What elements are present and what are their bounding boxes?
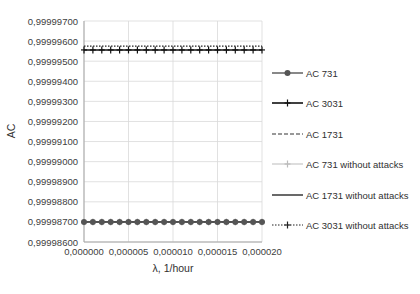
- data-point-marker: [241, 219, 247, 225]
- data-point-marker: [152, 219, 158, 225]
- x-tick-label: 0,000005: [109, 246, 149, 257]
- data-point-marker: [170, 219, 176, 225]
- y-tick-label: 0,99999600: [28, 36, 78, 47]
- data-point-marker: [117, 219, 123, 225]
- data-point-marker: [90, 219, 96, 225]
- legend: AC 731AC 3031AC 1731AC 731 without attac…: [272, 68, 409, 231]
- y-tick-label: 0,99999000: [28, 156, 78, 167]
- y-tick-label: 0,99999400: [28, 76, 78, 87]
- y-tick-label: 0,99999500: [28, 56, 78, 67]
- y-tick-label: 0,99998900: [28, 176, 78, 187]
- y-tick-label: 0,99999200: [28, 116, 78, 127]
- x-axis-tick-labels: 0,0000000,0000050,0000100,0000150,000020: [64, 246, 282, 257]
- x-axis-title: λ, 1/hour: [153, 262, 194, 274]
- data-point-marker: [197, 219, 203, 225]
- y-axis-tick-labels: 0,999986000,999987000,999988000,99998900…: [28, 16, 78, 248]
- data-point-marker: [126, 219, 132, 225]
- data-point-marker: [206, 219, 212, 225]
- chart: 0,999986000,999987000,999988000,99998900…: [0, 0, 420, 294]
- data-point-marker: [215, 219, 221, 225]
- x-tick-label: 0,000020: [242, 246, 282, 257]
- x-tick-label: 0,000010: [153, 246, 193, 257]
- data-point-marker: [161, 219, 167, 225]
- y-tick-label: 0,99999300: [28, 96, 78, 107]
- y-tick-label: 0,99999100: [28, 136, 78, 147]
- data-point-marker: [188, 219, 194, 225]
- series-ac-3031: [81, 46, 265, 53]
- legend-label: AC 731 without attacks: [306, 159, 403, 170]
- legend-label: AC 1731: [306, 129, 343, 140]
- gridlines: [84, 21, 262, 242]
- data-point-marker: [179, 219, 185, 225]
- data-point-marker: [223, 219, 229, 225]
- legend-label: AC 731: [306, 68, 338, 79]
- y-tick-label: 0,99998700: [28, 216, 78, 227]
- y-tick-label: 0,99998800: [28, 196, 78, 207]
- legend-item: AC 731: [272, 68, 338, 79]
- x-tick-label: 0,000000: [64, 246, 104, 257]
- legend-label: AC 3031: [306, 98, 343, 109]
- data-point-marker: [108, 219, 114, 225]
- legend-marker: [285, 70, 291, 76]
- data-point-marker: [250, 219, 256, 225]
- legend-label: AC 3031 without attacks: [306, 220, 409, 231]
- y-axis-title: AC: [5, 123, 17, 138]
- legend-label: AC 1731 without attacks: [306, 190, 409, 201]
- data-point-marker: [259, 219, 265, 225]
- legend-item: AC 3031: [272, 98, 343, 109]
- x-tick-label: 0,000015: [198, 246, 238, 257]
- legend-item: AC 1731: [272, 129, 343, 140]
- data-point-marker: [134, 219, 140, 225]
- legend-item: AC 1731 without attacks: [272, 190, 409, 201]
- series-ac-731: [81, 219, 265, 225]
- data-point-marker: [143, 219, 149, 225]
- data-point-marker: [81, 219, 87, 225]
- legend-item: AC 731 without attacks: [272, 159, 403, 170]
- data-point-marker: [232, 219, 238, 225]
- data-point-marker: [99, 219, 105, 225]
- legend-item: AC 3031 without attacks: [272, 220, 409, 231]
- y-tick-label: 0,99999700: [28, 16, 78, 27]
